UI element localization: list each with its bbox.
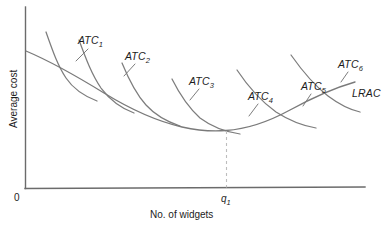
atc6-leader: [341, 72, 348, 82]
atc4-curve: [172, 79, 240, 134]
atc4-leader: [249, 104, 258, 116]
axis-tick-labels-group: 0 q1: [14, 192, 231, 207]
lrac-envelope-figure: ATC1 ATC2 ATC3 ATC4 ATC5 ATC6 LRAC 0 q1 …: [0, 0, 388, 228]
x-axis-line: [25, 187, 365, 189]
y-axis-title: Average cost: [8, 70, 19, 128]
curve-labels-group: ATC1 ATC2 ATC3 ATC4 ATC5 ATC6 LRAC: [77, 34, 381, 105]
axis-titles-group: Average cost No. of widgets: [8, 70, 213, 220]
lrac-label: LRAC: [352, 87, 381, 99]
origin-label: 0: [14, 192, 20, 203]
atc3-leader: [190, 89, 199, 100]
atc2-label: ATC2: [124, 50, 151, 65]
q1-tick-label: q1: [221, 193, 231, 207]
atc5-label: ATC5: [300, 80, 327, 95]
atc6-label: ATC6: [337, 58, 364, 73]
atc3-label: ATC3: [188, 75, 215, 90]
atc4-label: ATC4: [247, 90, 273, 105]
x-axis-title: No. of widgets: [150, 209, 213, 220]
